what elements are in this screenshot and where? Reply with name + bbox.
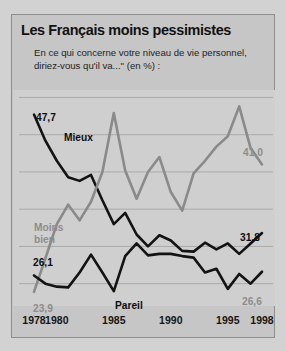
- x-tick-label-1995: 1995: [216, 314, 239, 326]
- annotation-mieux-end: 31,8: [240, 232, 260, 243]
- annotation-pareil-end: 26,6: [242, 296, 262, 307]
- chart-subtitle-line2: diriez-vous qu'il va..." (en %) :: [34, 60, 269, 73]
- annotation-mieux-start: 47,7: [36, 112, 56, 123]
- x-axis-tick-labels: 197819801985199019951998: [13, 314, 275, 330]
- x-tick-label-1980: 1980: [45, 314, 68, 326]
- series-label-pareil: Pareil: [115, 300, 143, 311]
- series-label-moins-bien-l1: Moins: [34, 222, 63, 233]
- annotation-moins-bien-end: 41,0: [243, 147, 263, 158]
- x-tick-label-1978: 1978: [22, 314, 45, 326]
- chart-subtitle-line1: En ce qui concerne votre niveau de vie p…: [34, 47, 269, 60]
- x-tick-label-1985: 1985: [102, 314, 125, 326]
- annotation-pareil-start: 26,1: [33, 257, 53, 268]
- series-label-moins-bien-l2: bien: [34, 234, 55, 245]
- chart-subtitle: En ce qui concerne votre niveau de vie p…: [34, 47, 269, 72]
- x-tick-label-1998: 1998: [250, 314, 273, 326]
- series-label-mieux: Mieux: [64, 132, 93, 143]
- annotation-moins-bien-start: 23,9: [33, 303, 53, 314]
- chart-card: Les Français moins pessimistes En ce qui…: [11, 14, 275, 338]
- chart-title: Les Français moins pessimistes: [21, 21, 254, 39]
- x-tick-label-1990: 1990: [159, 314, 182, 326]
